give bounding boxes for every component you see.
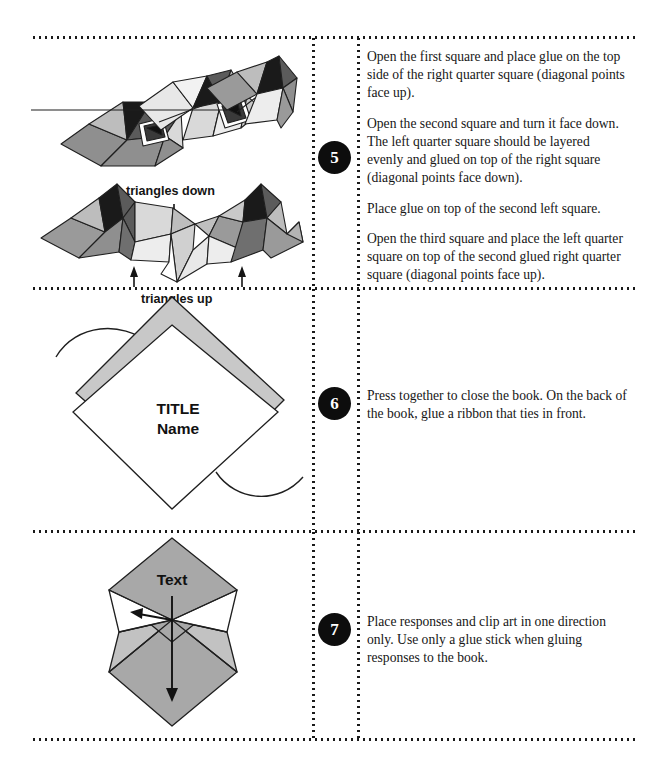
step-5-paragraph-2: Open the second square and turn it face …: [367, 115, 629, 187]
step-5-paragraph-1: Open the first square and place glue on …: [367, 48, 629, 102]
instruction-sheet: triangles down triangles up 5 Open the f…: [0, 0, 670, 772]
step-6-figure: TITLE Name: [31, 287, 312, 530]
text-diamond-illustration: [31, 530, 312, 738]
step-number-badge-5: 5: [318, 141, 351, 174]
step-7-figure: Text: [31, 530, 312, 738]
step-7-section: Text 7 Place responses and clip art in o…: [0, 530, 670, 738]
step-number-badge-6: 6: [318, 387, 351, 420]
label-name: Name: [133, 419, 223, 438]
step-number-badge-7: 7: [318, 613, 351, 646]
label-title: TITLE: [133, 399, 223, 418]
step-7-paragraph-1: Place responses and clip art in one dire…: [367, 613, 629, 667]
step-6-number-column: 6: [315, 287, 358, 530]
step-5-number-column: 5: [315, 36, 358, 287]
label-triangles-down: triangles down: [126, 184, 215, 198]
step-5-figure: triangles down triangles up: [31, 36, 312, 287]
step-6-text: Press together to close the book. On the…: [367, 387, 629, 423]
step-5-paragraph-4: Open the third square and place the left…: [367, 230, 629, 284]
step-5-section: triangles down triangles up 5 Open the f…: [0, 36, 670, 287]
folded-squares-illustration: [31, 36, 312, 287]
step-7-number-column: 7: [315, 530, 358, 738]
step-5-text: Open the first square and place glue on …: [367, 48, 629, 285]
label-text: Text: [137, 570, 207, 589]
step-5-paragraph-3: Place glue on top of the second left squ…: [367, 200, 629, 218]
step-6-section: TITLE Name 6 Press together to close the…: [0, 287, 670, 530]
step-6-paragraph-1: Press together to close the book. On the…: [367, 387, 629, 423]
step-7-text: Place responses and clip art in one dire…: [367, 613, 629, 667]
divider-bottom: [31, 738, 639, 741]
